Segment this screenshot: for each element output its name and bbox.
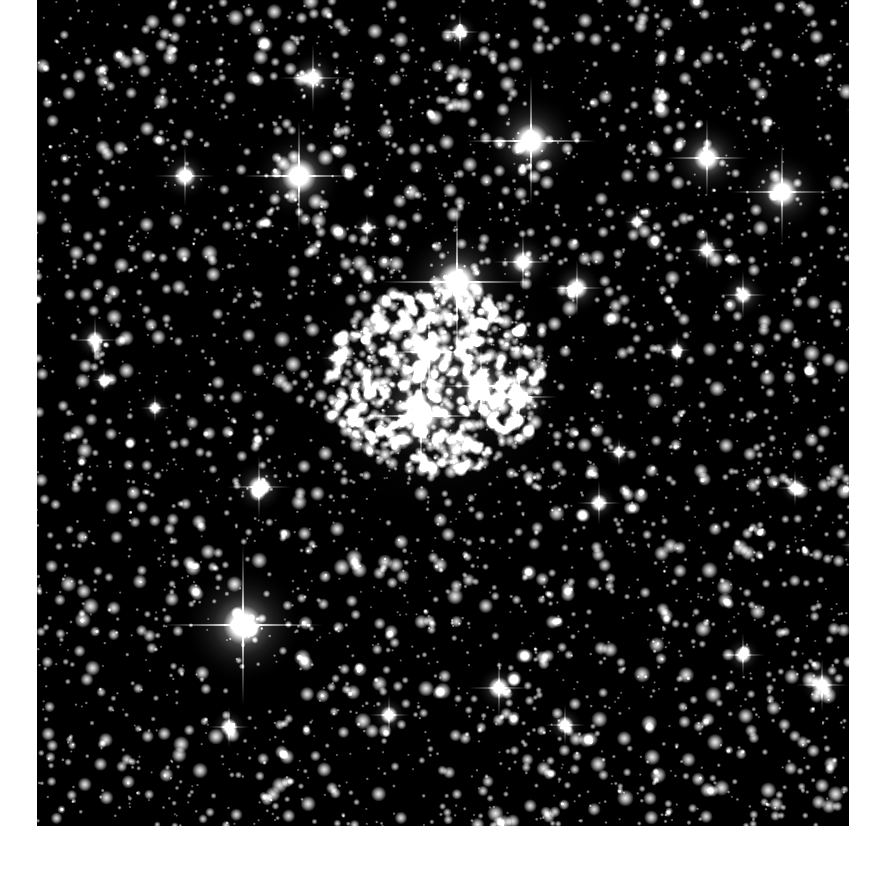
starfield-canvas xyxy=(37,0,849,826)
star-cluster-image xyxy=(37,0,849,826)
